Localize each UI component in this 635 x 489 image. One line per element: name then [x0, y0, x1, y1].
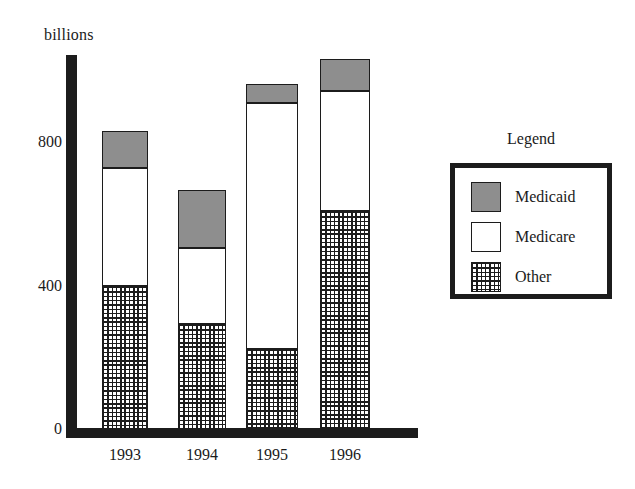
x-tick-label-1994: 1994: [186, 446, 218, 464]
legend-box: MedicaidMedicareOther: [450, 163, 612, 299]
bar-segment-1996-medicaid[interactable]: [320, 59, 370, 91]
bar-segment-1996-medicare[interactable]: [320, 91, 370, 211]
bar-segment-1994-medicaid[interactable]: [178, 190, 226, 248]
x-tick-label-1995: 1995: [256, 446, 288, 464]
bar-segment-1993-medicare[interactable]: [102, 168, 148, 286]
bar-segment-1994-medicare[interactable]: [178, 248, 226, 324]
legend-title: Legend: [450, 130, 612, 148]
bar-segment-1996-other[interactable]: [320, 211, 370, 429]
legend-swatch-medicare: [471, 222, 501, 252]
bar-segment-1994-other[interactable]: [178, 324, 226, 429]
x-tick-label-1993: 1993: [109, 446, 141, 464]
x-tick-label-1996: 1996: [329, 446, 361, 464]
bar-1996[interactable]: [320, 0, 370, 489]
legend-swatch-medicaid: [471, 182, 501, 212]
bar-1995[interactable]: [246, 0, 298, 489]
legend-label-other: Other: [515, 268, 551, 286]
legend-item-medicare[interactable]: Medicare: [471, 222, 575, 252]
bar-1994[interactable]: [178, 0, 226, 489]
legend-item-medicaid[interactable]: Medicaid: [471, 182, 575, 212]
legend-swatch-other: [471, 262, 501, 292]
bar-segment-1995-other[interactable]: [246, 349, 298, 429]
bar-segment-1995-medicare[interactable]: [246, 103, 298, 349]
legend-label-medicare: Medicare: [515, 228, 575, 246]
stacked-bar-chart: billions 0400800 1993199419951996 Legend…: [0, 0, 635, 489]
bar-segment-1993-other[interactable]: [102, 286, 148, 429]
bar-segment-1995-medicaid[interactable]: [246, 84, 298, 103]
bar-1993[interactable]: [102, 0, 148, 489]
legend-item-other[interactable]: Other: [471, 262, 551, 292]
bar-segment-1993-medicaid[interactable]: [102, 131, 148, 168]
legend-label-medicaid: Medicaid: [515, 188, 575, 206]
